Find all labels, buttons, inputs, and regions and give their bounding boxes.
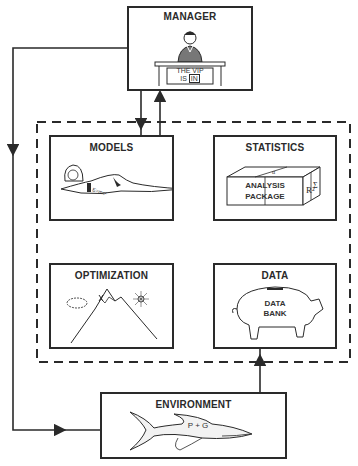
environment-box: ENVIRONMENT P + G xyxy=(100,392,287,459)
data-bank-line1: DATA xyxy=(255,299,295,308)
mountain-peak-icon xyxy=(51,265,172,347)
data-box: DATA DATA BANK xyxy=(213,263,337,349)
analysis-package-icon: R² Σ α xyxy=(215,137,335,219)
models-box: MODELS E=mc² xyxy=(49,135,174,221)
stat-symbol-sigma: Σ xyxy=(313,181,318,190)
environment-fish-label: P + G xyxy=(178,421,218,430)
package-label-line1: ANALYSIS xyxy=(227,181,303,190)
manager-sign-line1: THE VIP xyxy=(167,67,213,74)
data-bank-line2: BANK xyxy=(255,309,295,318)
manager-sign-prefix: IS xyxy=(180,75,187,82)
optimization-box: OPTIMIZATION xyxy=(49,263,174,349)
manager-box: MANAGER THE VIP IS IN xyxy=(127,6,253,91)
statistics-box: STATISTICS R² Σ α ANALYSIS PACKAGE xyxy=(213,135,337,221)
manager-sign-line2: IS IN xyxy=(167,75,213,82)
reclining-model-icon: E=mc² xyxy=(51,137,172,219)
package-label-line2: PACKAGE xyxy=(227,192,303,201)
manager-sign-status: IN xyxy=(189,74,200,83)
models-sash-text: E=mc² xyxy=(92,186,108,196)
